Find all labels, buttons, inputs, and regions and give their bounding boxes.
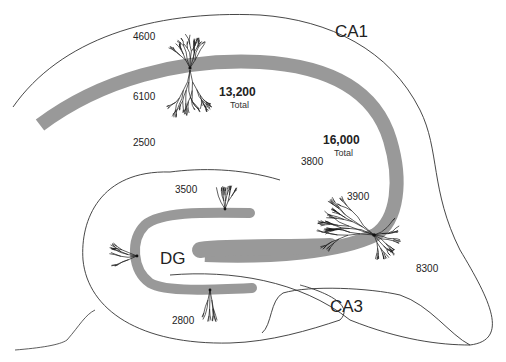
dendrite-branch [122,260,128,262]
ca3-soma [372,233,376,237]
dendrite-branch [229,186,230,190]
ca3-region-outline [262,288,470,345]
dendrite-branch [198,50,200,55]
ca3-label: CA3 [330,298,363,315]
dendrite-branch [204,307,206,313]
dendrite-branch [339,209,345,215]
ca3-total-value: 16,000 [323,134,360,146]
ca1-apical-oblique-count: 6100 [133,92,155,102]
ca3-hilar-band [200,246,330,250]
dendrite-branch [176,105,177,110]
dendrite-branch [227,186,228,190]
dendrite-branch [388,240,393,241]
ca3-basal-count: 8300 [416,264,438,274]
dendrite-branch [189,91,191,97]
ca1-soma [188,66,191,69]
dg-label: DG [160,250,186,267]
ca1-label: CA1 [335,23,368,40]
dendrite-branch [396,226,399,228]
dendrite-branch [393,228,396,231]
dendrite-branch [376,256,377,259]
dendrite-branch [187,113,188,116]
dg-left-soma [136,255,139,258]
dendrite-branch [185,34,188,38]
dendrite-branch [176,44,179,47]
dendrite-branch [192,105,193,108]
dendrite-branch [232,192,235,197]
dendrite-branch [184,112,185,115]
dendrite-branch [181,38,183,41]
ca3-apical-proximal-count: 3900 [347,192,369,202]
dendrite-branch [188,110,189,113]
dendrite-branch [341,206,346,208]
dendrite-branch [186,52,187,60]
dendrite-branch [189,35,190,39]
dendrite-branch [168,107,170,109]
dendrite-branch [172,102,176,104]
dendrite-branch [325,211,328,214]
ca1-total-label: Total [230,101,249,110]
dendrite-branch [210,315,211,320]
dendrite-branch [379,241,383,246]
dg-lower-soma [209,289,212,292]
dendrite-branch [378,248,379,252]
dendrite-branch [223,191,224,196]
dendrite-branch [187,108,188,112]
dendrite-branch [118,262,122,265]
dendrite-branch [176,52,181,56]
dendrite-branch [387,255,389,258]
dg-top-boundary [170,170,280,180]
dendrite-branch [181,101,183,104]
dendrite-branch [183,96,184,101]
ca1-pyramidal-neuron [167,34,213,117]
dendrite-branch [203,43,205,46]
dendrite-branch [388,253,390,255]
dendrite-branch [353,220,362,227]
dendrite-branch [350,232,360,233]
dg-granule-neuron-upper [216,186,237,209]
dendrite-branch [321,222,325,223]
dg-lower-count: 2800 [172,316,194,326]
dendrite-branch [217,191,218,196]
dendrite-branch [221,191,222,196]
ca1-basal-count: 2500 [133,138,155,148]
outer-base-line [15,310,95,350]
dendrite-branch [190,45,192,52]
hippocampus-diagram: CA1 CA3 DG 4600 6100 2500 13,200 Total 1… [0,0,506,362]
dendrite-branch [382,253,383,257]
dendrite-branch [183,82,187,90]
dendrite-branch [184,44,186,46]
dendrite-branch [218,196,221,202]
dendrite-branch [396,242,399,243]
ca3-total-label: Total [334,149,353,158]
dendrite-branch [199,42,200,47]
dendrite-branch [202,103,203,106]
ca1-apical-tuft-count: 4600 [133,32,155,42]
dendrite-branch [225,195,226,201]
dendrite-branch [200,106,201,108]
dendrite-branch [121,256,128,257]
dendrite-branch [167,106,169,107]
ca3-apical-distal-count: 3800 [301,157,323,167]
dendrite-branch [205,308,207,315]
dendrite-branch [194,108,195,110]
dendrite-branch [332,212,336,213]
dg-granule-neuron-lower [202,290,217,322]
dendrite-branch [193,82,197,90]
dendrite-branch [352,211,358,217]
dendrite-branch [341,215,346,218]
dg-upper-soma [224,208,227,211]
dendrite-branch [188,49,190,53]
dendrite-branch [216,187,217,191]
dg-upper-count: 3500 [175,185,197,195]
dendrite-branch [184,46,186,52]
dendrite-branch [201,46,204,50]
dendrite-branch [343,230,350,232]
dendrite-branch [397,239,400,240]
dendrite-branch [199,42,201,44]
ca1-total-value: 13,200 [219,86,256,98]
